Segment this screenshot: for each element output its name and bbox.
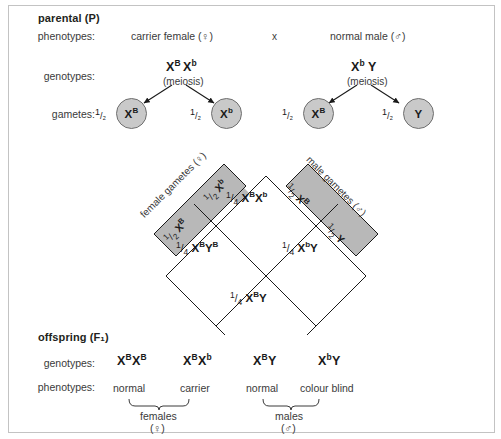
row-label-phenotypes-parental: phenotypes: [23,30,95,42]
offspring-phenotype-1: normal [113,382,145,394]
offspring-phenotype-4: colour blind [300,382,354,394]
punnett-square-diagram: parental (P) phenotypes: genotypes: game… [0,0,501,439]
offspring-genotype-4: XbY [318,354,341,368]
male-gamete-2-circle: Y [403,98,434,129]
group-label-females: females [140,410,177,422]
male-parent-genotype: XbY [351,60,377,74]
group-symbol-females: (♀) [150,422,165,434]
offspring-phenotype-2: carrier [180,382,210,394]
punnett-cell-right: 1/4 XbY [282,242,318,257]
offspring-genotype-3: XBY [253,354,276,368]
males-brace [262,398,320,410]
punnett-cell-bottom: 1/4 XBY [230,292,267,307]
females-brace [128,398,190,410]
offspring-genotype-2: XBXb [183,354,212,368]
row-label-phenotypes-offspring: phenotypes: [23,381,95,393]
female-parent-genotype: XBXb [166,60,197,74]
row-label-genotypes-parental: genotypes: [23,70,95,82]
group-symbol-males: (♂) [281,422,296,434]
offspring-phenotype-3: normal [246,382,278,394]
punnett-square: female gametes (♀) male gametes (♂) 1/2 … [140,150,392,335]
punnett-cell-left: 1/4 XBYB [176,242,218,257]
cross-symbol: x [272,31,277,42]
female-gamete-2-fraction: 1/₂ [190,110,201,121]
male-parent-phenotype: normal male (♂) [330,30,406,42]
punnett-cell-top: 1/4 XBXb [226,192,267,207]
male-gamete-2-fraction: 1/₂ [382,110,393,121]
parental-section-title: parental (P) [38,12,100,24]
female-gamete-1-circle: XB [116,98,147,129]
row-label-genotypes-offspring: genotypes: [23,357,95,369]
group-label-males: males [275,410,303,422]
female-gamete-1-fraction: 1/₂ [95,110,106,121]
female-gamete-2-circle: Xb [211,98,242,129]
male-gamete-1-fraction: 1/₂ [282,110,293,121]
offspring-genotype-1: XBXB [117,354,147,368]
row-label-gametes-parental: gametes: [23,108,95,120]
female-parent-phenotype: carrier female (♀) [131,30,213,42]
offspring-section-title: offspring (F₁) [38,331,109,343]
male-gamete-1-circle: XB [303,98,334,129]
